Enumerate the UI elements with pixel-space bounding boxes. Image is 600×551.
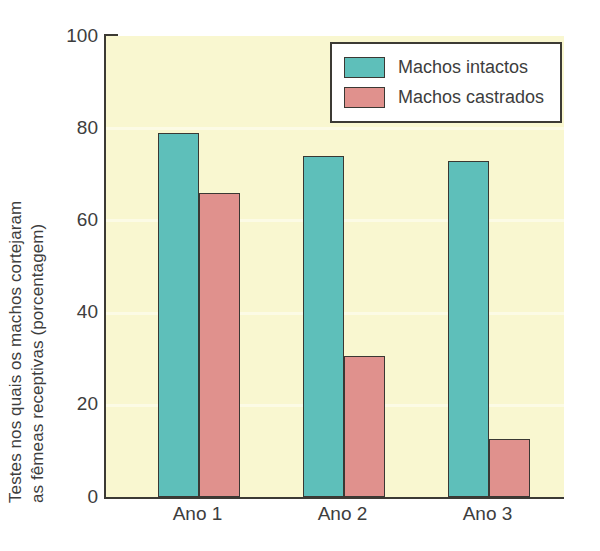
legend-item-machos-castrados[interactable]: Machos castrados [344,82,550,112]
y-tick-label-60: 60 [54,210,98,229]
legend-swatch-icon-machos-intactos [344,57,385,78]
bar-ano-3-machos-intactos[interactable] [448,161,489,497]
y-axis-tick-labels: 100 80 60 40 20 0 [52,0,98,551]
legend-item-machos-intactos[interactable]: Machos intactos [344,52,550,82]
bar-ano-2-machos-castrados[interactable] [344,356,385,497]
x-tick-label-ano-3: Ano 3 [435,503,540,525]
y-tick-label-20: 20 [54,394,98,413]
legend-label-machos-intactos: Machos intactos [398,57,528,78]
bar-ano-1-machos-intactos[interactable] [158,133,199,497]
bar-ano-2-machos-intactos[interactable] [303,156,344,497]
legend-swatch-icon-machos-castrados [344,87,385,108]
y-tick-label-100: 100 [54,26,98,45]
bar-chart-figure: Testes nos quais os machos cortejaram as… [0,0,600,551]
y-tick-label-40: 40 [54,302,98,321]
chart-legend: Machos intactos Machos castrados [330,42,562,123]
axis-corner-stub-bottom [548,497,564,499]
y-axis-label-line-2: as fêmeas receptivas (porcentagem) [28,224,48,503]
bar-ano-3-machos-castrados[interactable] [489,439,530,497]
x-tick-label-ano-1: Ano 1 [145,503,250,525]
y-tick-label-0: 0 [54,487,98,506]
x-tick-label-ano-2: Ano 2 [290,503,395,525]
bar-ano-1-machos-castrados[interactable] [199,193,240,497]
y-axis-label-line-1: Testes nos quais os machos cortejaram [6,201,26,503]
y-tick-label-80: 80 [54,118,98,137]
legend-label-machos-castrados: Machos castrados [398,87,544,108]
x-axis-tick-labels: Ano 1 Ano 2 Ano 3 [104,503,562,539]
